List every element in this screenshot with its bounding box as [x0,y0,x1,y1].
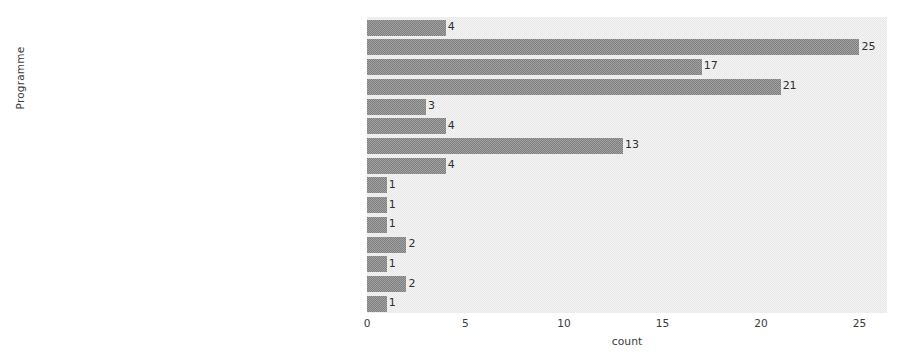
bar-row: information management and information s… [367,96,887,117]
bar [367,197,387,213]
bar [367,177,387,193]
bar-row: computer science and technology25 [367,37,887,58]
bar-row: data computing and application1 [367,254,887,275]
bar-row: data science and big data technology17 [367,56,887,77]
bar-value-label: 1 [389,296,396,310]
bar-row: smart science and technology1 [367,214,887,235]
bar-value-label: 1 [389,178,396,192]
bar-value-label: 1 [389,198,396,212]
bar-chart-figure: Programme e-commerce4computer science an… [0,0,910,361]
bar [367,296,387,312]
bar-value-label: 21 [783,79,797,93]
x-axis-label: count [367,335,887,348]
bar-value-label: 2 [408,237,415,251]
bar-row: geographic information science4 [367,116,887,137]
y-axis-label: Programme [14,18,34,138]
bar [367,217,387,233]
bar [367,256,387,272]
bar [367,237,406,253]
x-tick-label: 20 [754,317,767,329]
bar-row: artificial intelligence2 [367,274,887,295]
bar-value-label: 3 [428,99,435,113]
bar [367,79,781,95]
plot-area: e-commerce4computer science and technolo… [367,17,887,313]
x-tick-label: 25 [853,317,866,329]
bar [367,276,406,292]
bar-value-label: 4 [448,158,455,172]
bar-value-label: 17 [704,59,718,73]
bar [367,118,446,134]
bar [367,39,859,55]
bar-row: information countermeasure technology1 [367,293,887,314]
bar [367,158,446,174]
bar-row: electronic information science and techn… [367,175,887,196]
bar-row: internet of things engineering4 [367,155,887,176]
bar-value-label: 4 [448,119,455,133]
bar-value-label: 25 [861,40,875,54]
bar-value-label: 1 [389,217,396,231]
bar [367,138,623,154]
bar-value-label: 13 [625,138,639,152]
x-tick-label: 5 [462,317,469,329]
bar-value-label: 4 [448,20,455,34]
bar-row: e-commerce4 [367,17,887,38]
bar [367,59,702,75]
bar [367,20,446,36]
bar-row: software engineering21 [367,76,887,97]
x-tick-label: 10 [557,317,570,329]
x-tick-label: 0 [364,317,371,329]
bar-row: smart medical engineering2 [367,234,887,255]
bar-value-label: 1 [389,257,396,271]
bar-row: network engineering1 [367,195,887,216]
bar-row: information and computing science13 [367,135,887,156]
bar [367,99,426,115]
x-tick-label: 15 [656,317,669,329]
bar-value-label: 2 [408,277,415,291]
